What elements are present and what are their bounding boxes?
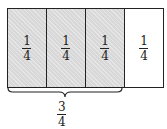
- numerator: 1: [139, 35, 149, 47]
- curly-brace-icon: [7, 88, 123, 98]
- fraction-bar: 1 4 1 4 1 4 1 4: [7, 8, 164, 88]
- denominator: 4: [57, 116, 67, 128]
- fraction-label: 1 4: [61, 35, 71, 62]
- fraction-label: 1 4: [139, 35, 149, 62]
- denominator: 4: [100, 50, 110, 62]
- fraction-cell-1: 1 4: [8, 9, 46, 87]
- denominator: 4: [61, 50, 71, 62]
- fraction-cell-4: 1 4: [124, 9, 163, 87]
- fraction-label: 1 4: [22, 35, 32, 62]
- numerator: 1: [100, 35, 110, 47]
- fraction-label: 1 4: [100, 35, 110, 62]
- denominator: 4: [139, 50, 149, 62]
- numerator: 1: [22, 35, 32, 47]
- denominator: 4: [22, 50, 32, 62]
- total-fraction-label: 3 4: [57, 101, 67, 128]
- fraction-cell-2: 1 4: [46, 9, 85, 87]
- fraction-cell-3: 1 4: [85, 9, 124, 87]
- numerator: 1: [61, 35, 71, 47]
- numerator: 3: [57, 101, 67, 113]
